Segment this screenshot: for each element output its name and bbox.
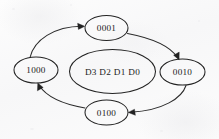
edge-1000-to-0001 xyxy=(30,23,85,57)
center-label: D3 D2 D1 D0 xyxy=(85,67,140,77)
state-label-1000: 1000 xyxy=(26,65,46,75)
state-node-0100[interactable]: 0100 xyxy=(85,100,128,125)
state-node-0001[interactable]: 0001 xyxy=(85,16,128,41)
edge-path-0001-0010 xyxy=(128,34,178,58)
state-node-1000[interactable]: 1000 xyxy=(14,57,58,83)
state-label-0010: 0010 xyxy=(173,67,193,77)
edge-path-0100-1000 xyxy=(39,86,85,109)
edge-0001-to-0010 xyxy=(128,34,180,60)
arrowhead-into-0001 xyxy=(78,23,85,29)
arrowhead-into-0100 xyxy=(128,109,135,115)
edge-0100-to-1000 xyxy=(37,83,85,108)
state-node-0010[interactable]: 0010 xyxy=(160,59,205,85)
state-label-0100: 0100 xyxy=(97,108,117,118)
center-state-group: D3 D2 D1 D0 xyxy=(70,50,156,94)
edge-path-1000-0001 xyxy=(30,26,82,57)
edge-path-0010-0100 xyxy=(131,86,186,113)
state-label-0001: 0001 xyxy=(97,23,117,33)
state-diagram-figure: D3 D2 D1 D0 0001 0010 0100 1000 xyxy=(0,0,219,139)
state-diagram-canvas: D3 D2 D1 D0 0001 0010 0100 1000 xyxy=(0,0,219,139)
